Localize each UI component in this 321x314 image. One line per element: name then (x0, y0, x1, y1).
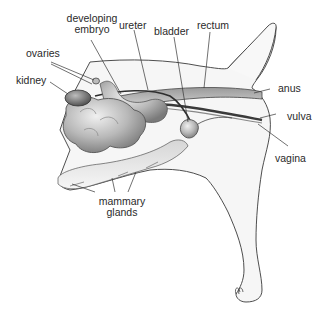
label-anus: anus (278, 83, 301, 94)
label-mammary-glands-line2: glands (90, 207, 154, 218)
label-ureter: ureter (119, 20, 146, 31)
label-mammary-glands: mammary glands (90, 196, 154, 218)
leader-kidney (50, 82, 68, 94)
label-ovaries: ovaries (26, 48, 60, 59)
label-bladder: bladder (154, 26, 189, 37)
label-vulva: vulva (287, 111, 312, 122)
label-kidney: kidney (16, 75, 46, 86)
ovary (93, 78, 100, 84)
leader-mammary-2 (112, 178, 115, 192)
label-vagina: vagina (275, 153, 306, 164)
kidney (65, 90, 91, 106)
label-rectum: rectum (197, 20, 229, 31)
